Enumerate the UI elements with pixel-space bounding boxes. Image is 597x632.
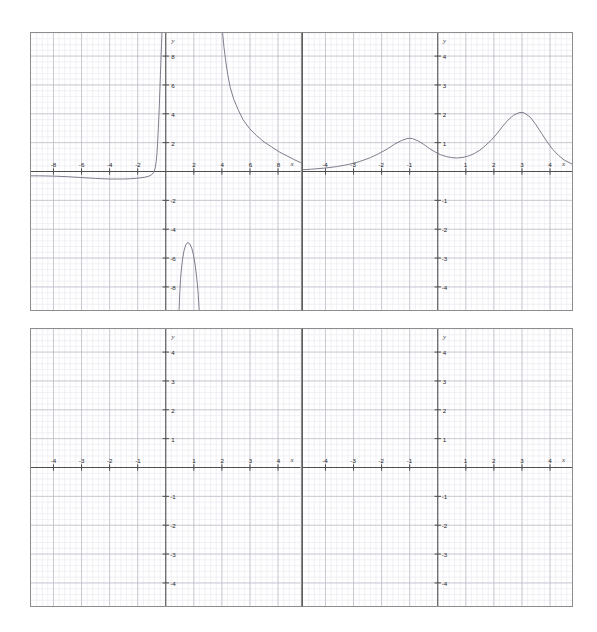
x-tick-label: 2 (492, 160, 495, 167)
x-tick-label: -4 (322, 160, 328, 167)
y-tick-label: 4 (171, 110, 174, 117)
x-axis-label: x (290, 160, 293, 168)
x-axis-label: x (562, 456, 565, 464)
x-tick-label: 4 (277, 456, 280, 463)
y-tick-label: -2 (442, 226, 448, 233)
x-tick-label: -4 (107, 160, 113, 167)
y-tick-label: -4 (170, 226, 176, 233)
x-tick-label: 2 (221, 456, 224, 463)
y-tick-label: 2 (171, 406, 174, 413)
y-tick-label: -6 (170, 255, 176, 262)
x-axis-label: x (562, 160, 565, 168)
x-tick-label: 4 (548, 456, 551, 463)
y-tick-label: 4 (443, 349, 446, 356)
y-tick-label: -4 (442, 283, 448, 290)
y-tick-label: -3 (170, 551, 176, 558)
x-tick-label: -3 (350, 456, 356, 463)
x-tick-label: -2 (379, 456, 385, 463)
y-tick-label: -2 (442, 522, 448, 529)
plot-panel-bottom-right[interactable]: -4-3-2-112344321-1-2-3-4xy (302, 328, 574, 607)
x-tick-label: -1 (135, 456, 141, 463)
tick-labels: -4-3-2-112344321-1-2-3-4xy (303, 329, 573, 606)
y-tick-label: -1 (442, 493, 448, 500)
y-tick-label: 1 (443, 139, 446, 146)
x-tick-label: -3 (350, 160, 356, 167)
y-tick-label: 8 (171, 53, 174, 60)
plot-panel-bottom-left[interactable]: -4-3-2-112344321-1-2-3-4xy (30, 328, 302, 607)
x-tick-label: -1 (407, 160, 413, 167)
y-tick-label: 6 (171, 81, 174, 88)
y-axis-label: y (171, 37, 174, 45)
y-axis-label: y (443, 333, 446, 341)
y-tick-label: 3 (443, 377, 446, 384)
x-tick-label: 4 (548, 160, 551, 167)
plot-panel-top-right[interactable]: -4-3-2-112344321-1-2-3-4xy (302, 32, 574, 311)
x-tick-label: 6 (249, 160, 252, 167)
x-tick-label: 8 (277, 160, 280, 167)
y-tick-label: 1 (171, 435, 174, 442)
y-tick-label: 2 (171, 139, 174, 146)
x-tick-label: -8 (51, 160, 57, 167)
x-tick-label: 3 (520, 456, 523, 463)
x-tick-label: 2 (492, 456, 495, 463)
y-tick-label: 2 (443, 110, 446, 117)
x-tick-label: -2 (107, 456, 113, 463)
y-tick-label: 3 (171, 377, 174, 384)
y-tick-label: -4 (170, 579, 176, 586)
figure-canvas: -8-6-4-224688642-2-4-6-8xy -4-3-2-112344… (0, 0, 597, 632)
x-tick-label: -3 (79, 456, 85, 463)
plot-row-top: -8-6-4-224688642-2-4-6-8xy -4-3-2-112344… (30, 32, 573, 311)
x-tick-label: -4 (322, 456, 328, 463)
tick-labels: -8-6-4-224688642-2-4-6-8xy (31, 33, 301, 310)
y-tick-label: -8 (170, 283, 176, 290)
x-tick-label: 1 (464, 456, 467, 463)
y-tick-label: -4 (442, 579, 448, 586)
x-tick-label: -6 (79, 160, 85, 167)
tick-labels: -4-3-2-112344321-1-2-3-4xy (31, 329, 301, 606)
y-tick-label: -3 (442, 255, 448, 262)
x-tick-label: 1 (464, 160, 467, 167)
y-tick-label: -2 (170, 197, 176, 204)
x-axis-label: x (290, 456, 293, 464)
plot-panel-top-left[interactable]: -8-6-4-224688642-2-4-6-8xy (30, 32, 302, 311)
y-tick-label: 3 (443, 81, 446, 88)
x-tick-label: 3 (249, 456, 252, 463)
y-tick-label: -1 (170, 493, 176, 500)
y-axis-label: y (171, 333, 174, 341)
y-tick-label: -2 (170, 522, 176, 529)
y-tick-label: 4 (171, 349, 174, 356)
tick-labels: -4-3-2-112344321-1-2-3-4xy (303, 33, 573, 310)
x-tick-label: 3 (520, 160, 523, 167)
x-tick-label: -2 (135, 160, 141, 167)
plot-row-bottom: -4-3-2-112344321-1-2-3-4xy -4-3-2-112344… (30, 328, 573, 607)
x-tick-label: -2 (379, 160, 385, 167)
x-tick-label: 2 (192, 160, 195, 167)
y-axis-label: y (443, 37, 446, 45)
y-tick-label: 1 (443, 435, 446, 442)
y-tick-label: 2 (443, 406, 446, 413)
y-tick-label: -3 (442, 551, 448, 558)
x-tick-label: -4 (51, 456, 57, 463)
y-tick-label: -1 (442, 197, 448, 204)
x-tick-label: 4 (221, 160, 224, 167)
x-tick-label: -1 (407, 456, 413, 463)
y-tick-label: 4 (443, 53, 446, 60)
x-tick-label: 1 (192, 456, 195, 463)
